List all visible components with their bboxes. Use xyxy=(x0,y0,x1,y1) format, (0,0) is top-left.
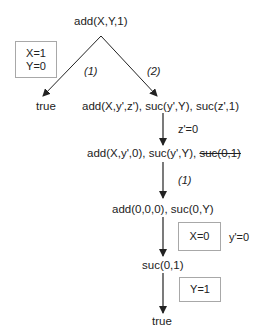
step-2-goal: add(X,y',0), suc(y',Y), suc(0,1) xyxy=(87,148,241,160)
substitution-y: Y=0 xyxy=(26,60,46,72)
step-1-goal: add(X,y',z'), suc(y',Y), suc(z',1) xyxy=(82,101,239,113)
substitution-x: X=1 xyxy=(26,47,46,59)
branch-label-right: (2) xyxy=(147,66,160,77)
step-1-binding: z'=0 xyxy=(178,124,198,135)
final-leaf-true: true xyxy=(152,316,172,328)
step-4-goal: suc(0,1) xyxy=(142,260,184,272)
substitution-y1: Y=1 xyxy=(190,283,210,295)
step-3-goal: add(0,0,0), suc(0,Y) xyxy=(112,204,214,216)
substitution-x0: X=0 xyxy=(190,230,210,242)
step-2-goal-prefix: add(X,y',0), suc(y',Y), xyxy=(87,147,199,159)
substitution-box-y1: Y=1 xyxy=(179,277,221,302)
step-2-label: (1) xyxy=(178,175,191,186)
root-node: add(X,Y,1) xyxy=(74,16,128,28)
branch-label-left: (1) xyxy=(84,66,97,77)
substitution-box-x1-y0: X=1 Y=0 xyxy=(15,41,57,78)
step-3-binding: y'=0 xyxy=(229,232,249,243)
left-leaf-true: true xyxy=(36,101,56,113)
step-2-goal-struck: suc(0,1) xyxy=(199,147,241,159)
substitution-box-x0: X=0 xyxy=(178,222,221,251)
